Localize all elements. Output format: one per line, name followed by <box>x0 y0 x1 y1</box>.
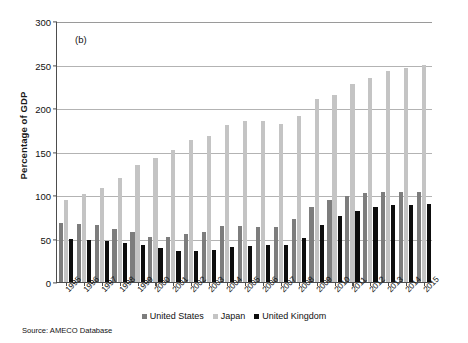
bar-japan-1997 <box>100 188 104 282</box>
bar-united-states-1998 <box>112 229 116 282</box>
bar-group <box>361 22 379 282</box>
bar-united-states-2009 <box>309 207 313 282</box>
bar-group <box>326 22 344 282</box>
source-note: Source: AMECO Database <box>22 326 112 335</box>
bar-united-states-1996 <box>77 224 81 282</box>
bar-group <box>57 22 75 282</box>
bar-japan-2002 <box>189 140 193 282</box>
bar-united-kingdom-2012 <box>373 207 377 282</box>
bar-japan-1999 <box>135 165 139 282</box>
bar-japan-2013 <box>386 71 390 282</box>
bar-japan-2005 <box>243 121 247 282</box>
legend-item-united-kingdom[interactable]: United Kingdom <box>254 311 326 321</box>
legend-label: United Kingdom <box>262 311 326 321</box>
bar-group <box>129 22 147 282</box>
plot-area: (b) 050100150200250300 <box>56 22 432 283</box>
bar-united-states-2001 <box>166 237 170 282</box>
bar-united-states-2011 <box>345 196 349 282</box>
bar-united-states-2004 <box>220 226 224 282</box>
bar-group <box>379 22 397 282</box>
legend-label: United States <box>150 311 204 321</box>
y-tick-label: 100 <box>35 191 51 202</box>
bar-japan-2007 <box>279 124 283 282</box>
legend-label: Japan <box>221 311 246 321</box>
legend-swatch-icon <box>254 314 259 319</box>
bar-japan-2011 <box>350 84 354 282</box>
bar-group <box>308 22 326 282</box>
bar-united-states-2014 <box>399 192 403 282</box>
y-tick-label: 200 <box>35 104 51 115</box>
bar-group <box>75 22 93 282</box>
bar-united-states-2010 <box>327 200 331 282</box>
bar-united-kingdom-2015 <box>427 204 431 282</box>
bar-united-kingdom-2011 <box>355 211 359 282</box>
bar-united-kingdom-2010 <box>338 216 342 282</box>
bar-group <box>343 22 361 282</box>
bar-japan-2015 <box>422 65 426 283</box>
bar-japan-2001 <box>171 150 175 282</box>
bar-united-states-2013 <box>381 192 385 282</box>
bar-group <box>254 22 272 282</box>
bar-japan-1998 <box>118 178 122 282</box>
bar-group <box>218 22 236 282</box>
y-axis-title: Percentage of GDP <box>18 66 29 206</box>
y-tick-label: 250 <box>35 60 51 71</box>
bar-group <box>290 22 308 282</box>
bar-group <box>272 22 290 282</box>
y-tick-label: 0 <box>46 278 51 289</box>
legend-swatch-icon <box>142 314 147 319</box>
bar-group <box>182 22 200 282</box>
bar-japan-2000 <box>153 158 157 282</box>
bar-united-states-2007 <box>274 227 278 282</box>
bar-group <box>164 22 182 282</box>
bar-united-kingdom-2009 <box>320 225 324 282</box>
bar-united-states-2005 <box>238 226 242 282</box>
chart-figure: Percentage of GDP (b) 050100150200250300… <box>0 0 468 343</box>
bars-layer <box>57 22 432 282</box>
bar-united-states-2003 <box>202 232 206 282</box>
bar-united-kingdom-2013 <box>391 205 395 282</box>
bar-group <box>93 22 111 282</box>
bar-japan-2006 <box>261 121 265 282</box>
bar-united-kingdom-2014 <box>409 205 413 282</box>
legend-swatch-icon <box>213 314 218 319</box>
y-tick-label: 50 <box>40 234 51 245</box>
bar-japan-2003 <box>207 136 211 282</box>
chart-legend: United StatesJapanUnited Kingdom <box>0 311 468 321</box>
bar-group <box>111 22 129 282</box>
y-tick-label: 300 <box>35 17 51 28</box>
bar-japan-2012 <box>368 78 372 282</box>
bar-group <box>397 22 415 282</box>
bar-united-states-2006 <box>256 227 260 282</box>
bar-united-states-2008 <box>292 219 296 282</box>
bar-united-states-1997 <box>95 225 99 282</box>
y-tick-mark <box>53 282 57 283</box>
bar-united-states-1999 <box>130 232 134 282</box>
bar-japan-2008 <box>297 116 301 282</box>
bar-united-states-2002 <box>184 234 188 282</box>
bar-group <box>200 22 218 282</box>
bar-japan-2010 <box>332 95 336 282</box>
bar-group <box>415 22 433 282</box>
bar-group <box>147 22 165 282</box>
bar-united-states-2015 <box>417 192 421 282</box>
bar-united-states-1995 <box>59 223 63 282</box>
legend-item-japan[interactable]: Japan <box>213 311 246 321</box>
bar-group <box>236 22 254 282</box>
bar-japan-2004 <box>225 125 229 282</box>
bar-japan-2014 <box>404 68 408 282</box>
y-tick-label: 150 <box>35 147 51 158</box>
bar-japan-1996 <box>82 194 86 282</box>
bar-united-kingdom-2008 <box>302 238 306 282</box>
legend-item-united-states[interactable]: United States <box>142 311 204 321</box>
bar-japan-2009 <box>315 99 319 282</box>
bar-japan-1995 <box>64 200 68 282</box>
bar-united-states-2012 <box>363 193 367 282</box>
